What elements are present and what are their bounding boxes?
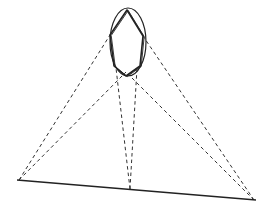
- dashed-projection-line: [19, 72, 126, 180]
- diagram-canvas: Line drawing of an ellipse containing an…: [0, 0, 273, 206]
- baseline: [17, 180, 256, 200]
- dashed-projection-line: [130, 68, 137, 189]
- projection-diagram: [0, 0, 273, 206]
- dashed-projection-lines: [19, 35, 254, 200]
- dashed-projection-line: [19, 35, 110, 180]
- dashed-projection-line: [116, 68, 130, 189]
- dashed-projection-line: [143, 36, 254, 200]
- dashed-projection-line: [128, 74, 254, 200]
